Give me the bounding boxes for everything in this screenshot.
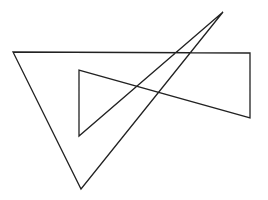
- closed-polyline-shape: [13, 12, 250, 189]
- diagram-canvas: [0, 0, 268, 200]
- line-figure: [0, 0, 268, 200]
